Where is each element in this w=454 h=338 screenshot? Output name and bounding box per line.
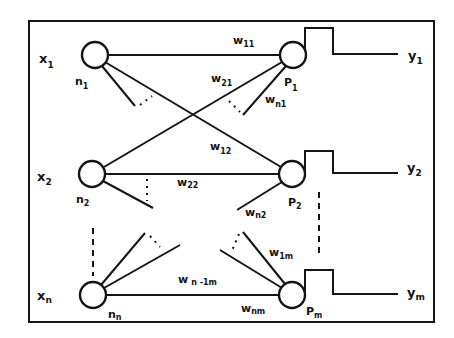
- node-label-pm: Pm: [306, 305, 322, 320]
- weight-label-w12: w12: [210, 140, 231, 156]
- input-node-nn: [80, 282, 106, 308]
- node-label-nn: nn: [108, 308, 122, 322]
- ellipsis-n1: [140, 96, 152, 105]
- ellipsis-nn: [150, 236, 160, 247]
- weight-label-w22: w22: [177, 176, 198, 190]
- weight-label-wn1: wn1: [265, 93, 287, 109]
- neural-network-diagram: x1 x2 xn n1 n2 nn P1 P2 Pm y1 y2 ym w11 …: [0, 0, 454, 338]
- ellipsis-p1: [229, 101, 240, 112]
- ellipsis-pm: [231, 234, 239, 253]
- step-function-ym: [305, 270, 398, 294]
- input-node-n2: [79, 161, 105, 187]
- output-node-pm: [279, 282, 305, 308]
- edge-stub-n1: [102, 66, 135, 106]
- node-label-p1: P1: [284, 76, 298, 93]
- edge-wn2: [237, 182, 282, 210]
- weight-label-wn-1m: wn -1m: [178, 273, 217, 287]
- step-function-y1: [305, 28, 398, 55]
- weight-label-w21: w21: [211, 72, 233, 88]
- output-node-p1: [280, 42, 306, 68]
- weight-label-w11: w11: [233, 34, 255, 49]
- output-node-p2: [279, 161, 305, 187]
- weight-label-w1m: w1m: [269, 246, 293, 261]
- input-label-x2: x2: [37, 169, 52, 187]
- input-label-x1: x1: [39, 51, 54, 70]
- node-label-n1: n1: [75, 75, 89, 91]
- weight-label-wn2: wn2: [245, 206, 266, 220]
- output-label-y1: y1: [408, 48, 423, 66]
- edge-stub-n2: [103, 181, 153, 208]
- step-function-y2: [305, 151, 398, 173]
- weight-label-wnm: wnm: [241, 302, 265, 316]
- node-label-n2: n2: [76, 193, 89, 208]
- node-label-p2: P2: [288, 196, 302, 211]
- input-node-n1: [82, 42, 108, 68]
- input-label-xn: xn: [37, 288, 52, 305]
- output-label-y2: y2: [407, 160, 422, 178]
- output-label-ym: ym: [407, 285, 425, 302]
